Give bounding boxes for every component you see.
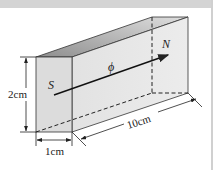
- width-dimension: [36, 132, 72, 146]
- length-label: 10cm: [125, 112, 152, 131]
- north-pole-label: N: [161, 37, 171, 51]
- south-pole-label: S: [48, 78, 54, 92]
- flux-label: ϕ: [108, 60, 114, 74]
- magnet-diagram: S N ϕ 2cm 1cm 10cm: [0, 0, 223, 170]
- width-label: 1cm: [45, 145, 64, 157]
- height-label: 2cm: [8, 88, 27, 100]
